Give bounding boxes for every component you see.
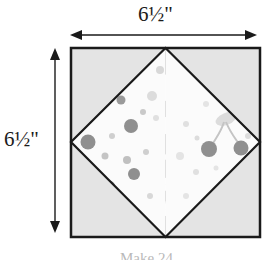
vertical-dimension-arrow — [50, 48, 60, 233]
block-square — [71, 48, 260, 237]
left-dimension-label: 6½" — [4, 127, 39, 152]
top-dimension-label: 6½" — [138, 2, 173, 27]
diagram-canvas — [0, 0, 279, 260]
quilt-block-diagram: 6½" 6½" — [0, 0, 279, 260]
block-caption: Make 24 — [120, 250, 173, 260]
horizontal-dimension-arrow — [70, 30, 257, 40]
